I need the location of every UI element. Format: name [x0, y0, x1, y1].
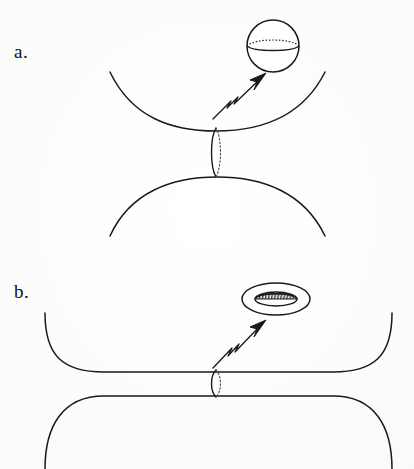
- torus-inset: [242, 283, 310, 315]
- sphere-outline: [247, 20, 299, 72]
- figure-container: a. b.: [0, 0, 414, 469]
- sphere-inset: [247, 20, 299, 72]
- figure-drawing-canvas: [0, 0, 414, 469]
- panel-b-label: b.: [14, 282, 29, 301]
- panel-a-label: a.: [14, 42, 28, 61]
